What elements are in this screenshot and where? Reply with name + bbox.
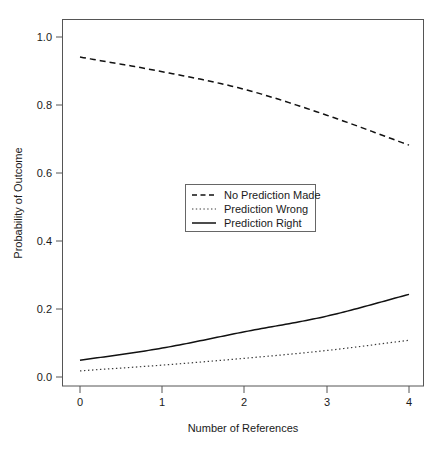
x-tick-label: 1 xyxy=(159,396,165,408)
x-tick-label: 3 xyxy=(324,396,330,408)
series-line-prediction-right xyxy=(80,294,409,360)
legend-label-no-prediction-made: No Prediction Made xyxy=(224,189,321,201)
legend-label-prediction-right: Prediction Right xyxy=(224,217,302,229)
plot-canvas: 0.0 0.2 0.4 0.6 0.8 1.0 0 1 2 3 4 Number… xyxy=(0,0,440,451)
x-axis-ticks xyxy=(80,386,409,393)
y-tick-label: 1.0 xyxy=(37,31,52,43)
legend: No Prediction Made Prediction Wrong Pred… xyxy=(186,185,321,232)
x-tick-label: 2 xyxy=(241,396,247,408)
x-axis-tick-labels: 0 1 2 3 4 xyxy=(77,396,412,408)
y-tick-label: 0.2 xyxy=(37,303,52,315)
y-tick-label: 0.0 xyxy=(37,371,52,383)
x-tick-label: 4 xyxy=(406,396,412,408)
y-tick-label: 0.4 xyxy=(37,235,52,247)
series-line-no-prediction-made xyxy=(80,57,409,145)
x-axis-title: Number of References xyxy=(188,422,299,434)
y-tick-label: 0.8 xyxy=(37,99,52,111)
chart-figure: 0.0 0.2 0.4 0.6 0.8 1.0 0 1 2 3 4 Number… xyxy=(0,0,440,451)
y-axis-title: Probability of Outcome xyxy=(12,147,24,258)
legend-label-prediction-wrong: Prediction Wrong xyxy=(224,203,308,215)
series-line-prediction-wrong xyxy=(80,340,409,371)
y-axis-ticks xyxy=(56,37,62,377)
x-tick-label: 0 xyxy=(77,396,83,408)
y-tick-label: 0.6 xyxy=(37,167,52,179)
y-axis-tick-labels: 0.0 0.2 0.4 0.6 0.8 1.0 xyxy=(37,31,52,383)
